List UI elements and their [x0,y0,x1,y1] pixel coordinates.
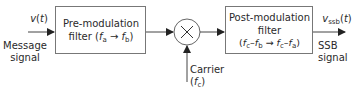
message-signal-label: Message signal [2,40,48,64]
pre-modulation-filter-label: Pre-modulation filter (fa → fb) [56,18,146,46]
carrier-label: Carrier (fc) [190,64,224,91]
input-symbol: v(t) [24,13,54,25]
output-symbol: vssb(t) [317,13,357,28]
ssb-signal-label: SSB signal [318,40,354,64]
post-modulation-filter-label: Post-modulation filter (fc–fb → fc–fa) [226,12,313,53]
